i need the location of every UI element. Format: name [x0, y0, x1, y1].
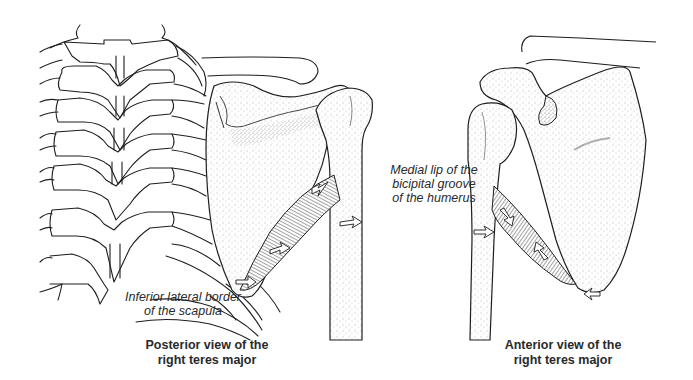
label-inferior-lateral-border: Inferior lateral border of the scapula — [118, 290, 248, 318]
label-line: Inferior lateral border — [118, 290, 248, 304]
caption-line: Posterior view of the — [132, 338, 282, 353]
vertebrae — [50, 40, 178, 304]
scapula-anterior — [480, 67, 646, 293]
label-line: Medial lip of the — [374, 163, 494, 177]
caption-line: Anterior view of the — [488, 338, 638, 353]
clavicle-anterior — [522, 36, 656, 68]
label-line: of the scapula — [118, 304, 248, 318]
anatomy-illustration — [0, 0, 693, 380]
caption-posterior: Posterior view of the right teres major — [132, 338, 282, 368]
label-line: bicipital groove — [374, 177, 494, 191]
caption-line: right teres major — [132, 353, 282, 368]
label-medial-lip: Medial lip of the bicipital groove of th… — [374, 163, 494, 205]
anterior-view — [522, 36, 656, 68]
clavicle — [202, 57, 318, 84]
caption-anterior: Anterior view of the right teres major — [488, 338, 638, 368]
caption-line: right teres major — [488, 353, 638, 368]
label-line: of the humerus — [374, 191, 494, 205]
